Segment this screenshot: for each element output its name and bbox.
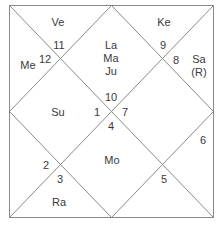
house-12-planet-ketu: Ke [157, 16, 170, 29]
house-9-sign: 6 [200, 134, 206, 147]
house-7-sign: 4 [108, 120, 114, 133]
house-6-sign: 3 [57, 173, 63, 186]
planet-saturn: Sa [192, 53, 205, 66]
house-4-sign: 1 [94, 106, 100, 119]
house-3-planet-mercury: Me [20, 59, 35, 72]
house-6-planet-rahu: Ra [52, 196, 66, 209]
house-4-planet-sun: Su [51, 106, 64, 119]
house-7-planet-moon: Mo [104, 154, 119, 167]
house-8-sign: 5 [161, 173, 167, 186]
house-3-sign: 12 [39, 53, 51, 66]
house-12-sign: 9 [160, 39, 166, 52]
planet-lagna: La [105, 39, 117, 52]
house-5-sign: 2 [43, 159, 49, 172]
house-11-planets: Sa (R) [191, 53, 206, 79]
house-2-sign: 11 [53, 39, 64, 52]
house-2-planet-venus: Ve [52, 16, 65, 29]
retrograde-marker: (R) [191, 66, 206, 79]
planet-mars: Ma [103, 52, 118, 65]
house-1-planets: La Ma Ju [103, 39, 118, 78]
house-11-sign: 8 [173, 54, 179, 67]
kundli-chart: La Ma Ju 10 Ve 11 Me 12 Su 1 2 3 Ra 4 Mo… [0, 0, 220, 226]
house-10-sign: 7 [122, 106, 128, 119]
chart-grid [0, 0, 220, 226]
house-1-sign: 10 [105, 91, 117, 104]
planet-jupiter: Ju [105, 65, 117, 78]
